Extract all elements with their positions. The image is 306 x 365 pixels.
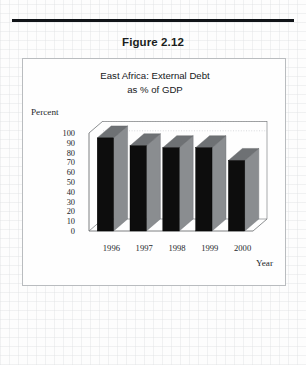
x-axis-label: Year <box>256 258 273 268</box>
plot-area <box>75 121 271 239</box>
chart-title-line-1: East Africa: External Debt <box>23 69 287 83</box>
y-axis-tick-label: 70 <box>55 158 75 167</box>
y-axis-tick-label: 30 <box>55 197 75 206</box>
y-axis-tick-label: 50 <box>55 178 75 187</box>
document-page: Figure 2.12 East Africa: External Debt a… <box>0 0 306 365</box>
y-axis-label: Percent <box>31 107 59 117</box>
x-axis-tick-labels: 19961997199819992000 <box>75 243 279 257</box>
y-axis-tick-label: 80 <box>55 148 75 157</box>
y-axis-tick-label: 40 <box>55 187 75 196</box>
chart-title-line-2: as % of GDP <box>23 83 287 97</box>
y-axis-tick-label: 90 <box>55 138 75 147</box>
x-axis-tick-label: 1999 <box>195 243 225 253</box>
y-axis-tick-label: 20 <box>55 207 75 216</box>
y-axis-tick-label: 100 <box>55 129 75 138</box>
y-axis-tick-label: 0 <box>55 227 75 236</box>
y-axis-tick-label: 60 <box>55 168 75 177</box>
bar-chart-svg <box>75 121 271 239</box>
chart-frame: East Africa: External Debt as % of GDP P… <box>22 58 286 286</box>
x-axis-tick-label: 2000 <box>228 243 258 253</box>
x-axis-tick-label: 1998 <box>162 243 192 253</box>
y-axis-tick-labels: 1009080706050403020100 <box>53 121 75 239</box>
x-axis-tick-label: 1996 <box>96 243 126 253</box>
figure-caption: Figure 2.12 <box>0 36 306 48</box>
header-rule <box>12 19 294 22</box>
y-axis-tick-label: 10 <box>55 217 75 226</box>
x-axis-tick-label: 1997 <box>129 243 159 253</box>
chart-title: East Africa: External Debt as % of GDP <box>23 69 287 97</box>
